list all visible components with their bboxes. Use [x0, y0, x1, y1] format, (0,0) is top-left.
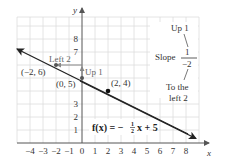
svg-text:1: 1: [93, 146, 98, 156]
x-tick-labels: −4 −3 −2 −1 0 1 2 3 4 5 6 7 8: [25, 146, 189, 156]
slope-denominator: −2: [182, 59, 192, 69]
svg-text:8: 8: [74, 34, 79, 44]
point-label-2-4: (2, 4): [111, 78, 131, 88]
y-axis-label: y: [72, 5, 77, 15]
left-2-label: Left 2: [49, 54, 71, 64]
svg-text:7: 7: [171, 146, 176, 156]
x-axis-label: x: [206, 148, 211, 158]
equation-rhs: x + 5: [137, 122, 158, 133]
left-2-right-label: left 2: [169, 93, 188, 103]
equation-lhs: f(x) = −: [92, 122, 124, 134]
up-1-label: Up 1: [85, 67, 103, 77]
svg-text:5: 5: [145, 146, 150, 156]
svg-text:−2: −2: [51, 146, 61, 156]
svg-text:2: 2: [74, 112, 79, 122]
point-2-4: [106, 89, 111, 94]
svg-text:3: 3: [119, 146, 124, 156]
slope-numerator: 1: [185, 47, 190, 57]
svg-text:4: 4: [132, 146, 137, 156]
slope-label: Slope: [155, 52, 176, 62]
svg-text:0: 0: [80, 146, 85, 156]
svg-text:2: 2: [106, 146, 111, 156]
svg-text:6: 6: [158, 146, 163, 156]
svg-text:−3: −3: [38, 146, 48, 156]
svg-text:1: 1: [74, 125, 79, 135]
svg-text:7: 7: [74, 47, 79, 57]
svg-text:8: 8: [184, 146, 189, 156]
point-neg2-6: [54, 63, 58, 67]
equation-frac-num: 1: [131, 121, 134, 127]
svg-text:−4: −4: [25, 146, 35, 156]
equation-frac-den: 2: [131, 128, 134, 134]
graph: x y −4 −3 −2 −1 0 1 2 3 4 5 6 7 8 1 2 3 …: [0, 0, 226, 160]
svg-text:−1: −1: [64, 146, 74, 156]
svg-text:3: 3: [74, 99, 79, 109]
right-up-1-label: Up 1: [171, 23, 189, 33]
point-0-5: [80, 76, 84, 80]
point-label-neg2-6: (−2, 6): [21, 67, 46, 77]
equation-label: f(x) = − 1 2 x + 5: [89, 119, 158, 135]
point-label-0-5: (0, 5): [56, 79, 76, 89]
to-the-label: To the: [166, 82, 189, 92]
